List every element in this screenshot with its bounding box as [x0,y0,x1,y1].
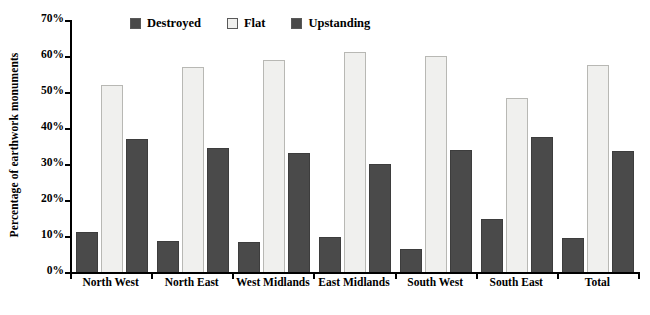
y-tick-label: 70% [41,12,64,24]
x-axis-label: East Midlands [313,276,394,300]
x-axis-line [70,272,638,274]
plot-area: 0%10%20%30%40%50%60%70% [70,20,638,272]
bar-groups [72,20,638,272]
bar-upstanding[interactable] [531,137,553,272]
bar-upstanding[interactable] [450,150,472,272]
y-tick-mark [65,20,72,22]
x-axis-labels: North WestNorth EastWest MidlandsEast Mi… [70,276,638,300]
y-tick-mark [65,164,72,166]
bar-group [153,20,234,272]
y-tick-label: 0% [47,264,64,276]
bar-destroyed[interactable] [562,238,584,272]
bar-flat[interactable] [263,60,285,272]
bar-flat[interactable] [587,65,609,272]
bar-group [557,20,638,272]
y-tick-label: 50% [41,84,64,96]
bar-upstanding[interactable] [126,139,148,272]
x-axis-label: Total [557,276,638,300]
x-axis-label: North West [70,276,151,300]
y-tick-label: 40% [41,120,64,132]
y-tick-mark [65,128,72,130]
bar-group [395,20,476,272]
bar-upstanding[interactable] [207,148,229,272]
bar-group [234,20,315,272]
bar-flat[interactable] [344,52,366,272]
bar-group [476,20,557,272]
bar-upstanding[interactable] [288,153,310,272]
y-tick-mark [65,92,72,94]
bar-chart: Percentage of earthwork monuments Destro… [0,0,650,315]
x-axis-label: South East [476,276,557,300]
bar-flat[interactable] [425,56,447,272]
y-tick-mark [65,236,72,238]
bar-destroyed[interactable] [481,219,503,272]
bar-destroyed[interactable] [400,249,422,272]
x-axis-label: North East [151,276,232,300]
bar-group [315,20,396,272]
bar-destroyed[interactable] [157,241,179,272]
y-axis-title-text: Percentage of earthwork monuments [8,53,20,238]
y-tick-label: 20% [41,192,64,204]
bar-upstanding[interactable] [369,164,391,272]
bar-group [72,20,153,272]
bar-destroyed[interactable] [319,237,341,272]
y-tick-label: 60% [41,48,64,60]
y-tick-mark [65,200,72,202]
x-tick-mark [638,272,640,279]
y-tick-label: 30% [41,156,64,168]
bar-upstanding[interactable] [612,151,634,272]
y-axis-title: Percentage of earthwork monuments [0,0,28,290]
y-tick-label: 10% [41,228,64,240]
x-axis-label: South West [395,276,476,300]
bar-flat[interactable] [506,98,528,272]
bar-destroyed[interactable] [238,242,260,272]
bar-flat[interactable] [182,67,204,272]
x-axis-label: West Midlands [232,276,313,300]
y-tick-mark [65,56,72,58]
bar-destroyed[interactable] [76,232,98,272]
bar-flat[interactable] [101,85,123,272]
